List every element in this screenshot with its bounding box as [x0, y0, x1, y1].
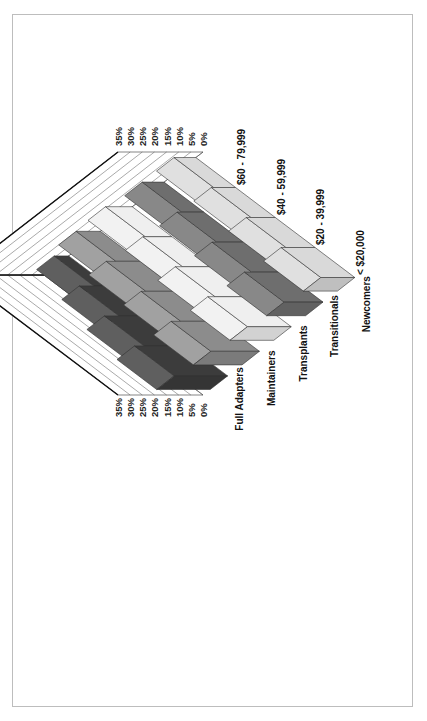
- category-label: < $20,000: [355, 230, 366, 275]
- value-tick-label: 35%: [113, 397, 124, 417]
- value-tick-label: 10%: [174, 397, 185, 417]
- value-tick-label: 25%: [137, 397, 148, 417]
- series-label: Newcomers: [361, 276, 372, 333]
- series-label: Maintainers: [266, 350, 277, 406]
- value-tick-label: 0%: [198, 132, 209, 146]
- ribbon-chart: 0%5%10%15%20%25%30%35%0%5%10%15%20%25%30…: [0, 0, 427, 721]
- series-label: Transplants: [298, 325, 309, 382]
- value-tick-label: 35%: [113, 126, 124, 146]
- value-tick-label: 25%: [137, 126, 148, 146]
- value-tick-label: 20%: [149, 126, 160, 146]
- value-tick-label: 10%: [174, 126, 185, 146]
- category-label: $60 - 79,999: [236, 128, 247, 185]
- value-tick-label: 5%: [186, 403, 197, 417]
- value-tick-label: 5%: [186, 132, 197, 146]
- value-tick-label: 15%: [162, 126, 173, 146]
- value-tick-label: 20%: [149, 397, 160, 417]
- category-label: $40 - 59,999: [276, 158, 287, 215]
- series-label: Full Adapters: [234, 367, 245, 431]
- value-tick-label: 0%: [198, 403, 209, 417]
- category-label: $20 - 39,999: [315, 188, 326, 245]
- series-label: Transitionals: [329, 295, 340, 357]
- value-tick-label: 15%: [162, 397, 173, 417]
- value-tick-label: 30%: [125, 126, 136, 146]
- value-tick-label: 30%: [125, 397, 136, 417]
